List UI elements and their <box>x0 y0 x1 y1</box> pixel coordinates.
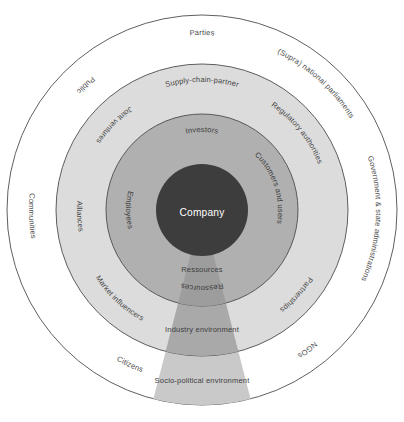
wedge-label-socio-political-environment: Socio-political environment <box>155 376 251 385</box>
stakeholder-diagram-canvas: Parties(Supra) national parliamentsGover… <box>0 0 404 422</box>
ring-label-parties: Parties <box>189 28 215 37</box>
wedge-label-ressources: Ressources <box>181 265 223 274</box>
center-label: Company <box>179 207 225 218</box>
wedge-label-industry-environment: Industry environment <box>165 325 240 334</box>
stakeholder-diagram: Parties(Supra) national parliamentsGover… <box>0 0 404 422</box>
